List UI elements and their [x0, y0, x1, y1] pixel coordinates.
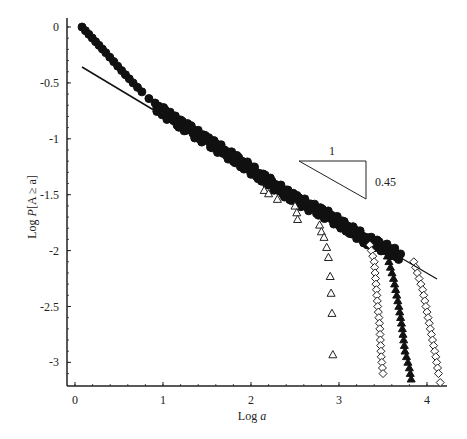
x-tick-label: 2 — [248, 393, 254, 407]
y-tick-label: -1.5 — [40, 188, 59, 202]
x-tick-label: 1 — [160, 393, 166, 407]
y-tick-label: 0 — [53, 20, 59, 34]
y-tick-label: -3 — [49, 355, 59, 369]
slope-rise-label: 0.45 — [375, 175, 396, 189]
x-axis-title: Log a — [238, 409, 266, 423]
x-tick-label: 4 — [424, 393, 430, 407]
x-tick-label: 0 — [72, 393, 78, 407]
data-series — [78, 23, 444, 387]
series-filled-star — [383, 252, 415, 382]
slope-triangle-shape — [299, 161, 366, 199]
tick-marks — [67, 27, 427, 386]
tick-labels: 012340-0.5-1-1.5-2-2.5-3 — [40, 20, 430, 407]
slope-triangle: 10.45 — [299, 144, 396, 199]
y-tick-label: -0.5 — [40, 76, 59, 90]
chart-svg: 012340-0.5-1-1.5-2-2.5-3 10.45 Log a Log… — [0, 0, 467, 439]
series-open-diamond — [366, 241, 387, 378]
y-tick-label: -2.5 — [40, 300, 59, 314]
y-tick-label: -1 — [49, 132, 59, 146]
x-tick-label: 3 — [336, 393, 342, 407]
series-open-diamond — [410, 258, 444, 387]
y-tick-label: -2 — [49, 244, 59, 258]
series-filled-pentagon — [78, 23, 405, 263]
y-axis-title: Log P[A ≥ a] — [25, 175, 39, 239]
slope-run-label: 1 — [329, 144, 335, 158]
